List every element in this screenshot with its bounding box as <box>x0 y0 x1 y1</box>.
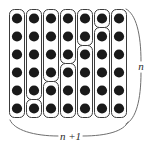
dot-c1-r5 <box>12 85 22 95</box>
dot-c6-r2 <box>97 31 107 41</box>
dot-c6-r4 <box>97 67 107 77</box>
dot-c7-r1 <box>114 13 124 23</box>
dot-c5-r2 <box>80 31 90 41</box>
dot-c7-r2 <box>114 31 124 41</box>
dot-array-figure: n n +1 <box>0 0 158 146</box>
dot-c6-r3 <box>97 49 107 59</box>
dot-c1-r1 <box>12 13 22 23</box>
bottom-brace-right-arc <box>83 122 128 136</box>
dot-c3-r2 <box>46 31 56 41</box>
dot-c1-r6 <box>12 103 22 113</box>
dot-c3-r5 <box>46 85 56 95</box>
figure-canvas: n n +1 <box>0 0 158 146</box>
dot-c7-r3 <box>114 49 124 59</box>
dot-c1-r2 <box>12 31 22 41</box>
dot-c4-r4 <box>63 67 73 77</box>
right-brace-label: n <box>138 60 144 72</box>
dot-c5-r4 <box>80 67 90 77</box>
dot-c3-r1 <box>46 13 56 23</box>
dot-c4-r1 <box>63 13 73 23</box>
dot-c2-r1 <box>29 13 39 23</box>
right-brace-lower-arc <box>126 73 141 124</box>
dot-c2-r2 <box>29 31 39 41</box>
dot-c4-r5 <box>63 85 73 95</box>
dot-c7-r6 <box>114 103 124 113</box>
bottom-brace-left-arc <box>10 120 58 136</box>
dot-c2-r4 <box>29 67 39 77</box>
dot-c6-r5 <box>97 85 107 95</box>
dot-c7-r4 <box>114 67 124 77</box>
dot-c4-r2 <box>63 31 73 41</box>
dot-c3-r6 <box>46 103 56 113</box>
strip-col7-block1 <box>112 10 127 118</box>
cell-strips <box>10 10 127 118</box>
dot-c1-r3 <box>12 49 22 59</box>
dot-c4-r6 <box>63 103 73 113</box>
dot-c6-r1 <box>97 13 107 23</box>
dot-c5-r5 <box>80 85 90 95</box>
strip-col1-block1 <box>10 10 25 118</box>
dot-c4-r3 <box>63 49 73 59</box>
dot-c5-r3 <box>80 49 90 59</box>
dot-c2-r5 <box>29 85 39 95</box>
bottom-brace-label: n +1 <box>60 130 81 142</box>
dot-c5-r1 <box>80 13 90 23</box>
dot-c2-r3 <box>29 49 39 59</box>
dot-c1-r4 <box>12 67 22 77</box>
dot-c3-r3 <box>46 49 56 59</box>
dot-c5-r6 <box>80 103 90 113</box>
dot-c2-r6 <box>29 103 39 113</box>
dot-c6-r6 <box>97 103 107 113</box>
dot-c7-r5 <box>114 85 124 95</box>
right-brace-upper-arc <box>126 9 141 61</box>
dot-c3-r4 <box>46 67 56 77</box>
